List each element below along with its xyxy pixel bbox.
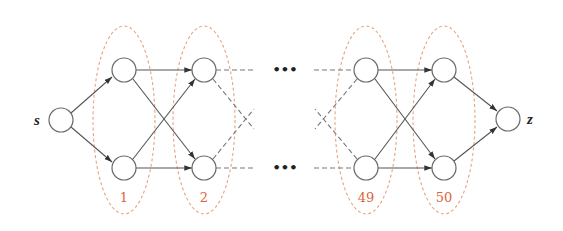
group-label-50: 50 xyxy=(436,190,453,205)
sink-label: z xyxy=(526,111,533,127)
node-layer1-bottom xyxy=(112,156,136,180)
node-layer2-top xyxy=(192,58,216,82)
dashed-edge-2top-cross xyxy=(213,79,254,129)
group-ellipse-2 xyxy=(173,26,235,214)
group-label-2: 2 xyxy=(200,190,208,205)
source-label: s xyxy=(33,112,40,128)
dashed-edge-49bottom-cross xyxy=(315,109,357,159)
group-ellipse-49 xyxy=(335,26,397,214)
edge-s-1bottom xyxy=(71,127,112,162)
dashed-edge-2bottom-cross xyxy=(213,109,254,159)
group-ellipse-1 xyxy=(93,26,155,214)
edge-s-1top xyxy=(71,77,112,113)
node-layer50-top xyxy=(432,58,456,82)
group-label-49: 49 xyxy=(358,190,375,205)
group-ellipse-50 xyxy=(413,26,475,214)
node-z xyxy=(496,107,520,131)
node-s xyxy=(49,108,73,132)
node-layer49-bottom xyxy=(354,156,378,180)
group-label-1: 1 xyxy=(120,190,128,205)
ellipsis-top: ••• xyxy=(273,62,298,77)
layered-graph-diagram: ••• ••• s z 1 2 49 50 xyxy=(0,0,563,231)
node-layer2-bottom xyxy=(192,156,216,180)
edge-50bottom-z xyxy=(454,127,497,161)
node-layer1-top xyxy=(112,58,136,82)
node-layer49-top xyxy=(354,58,378,82)
node-layer50-bottom xyxy=(432,156,456,180)
edge-50top-z xyxy=(454,77,497,111)
dashed-edge-49top-cross xyxy=(315,79,357,129)
ellipsis-bottom: ••• xyxy=(273,160,298,175)
